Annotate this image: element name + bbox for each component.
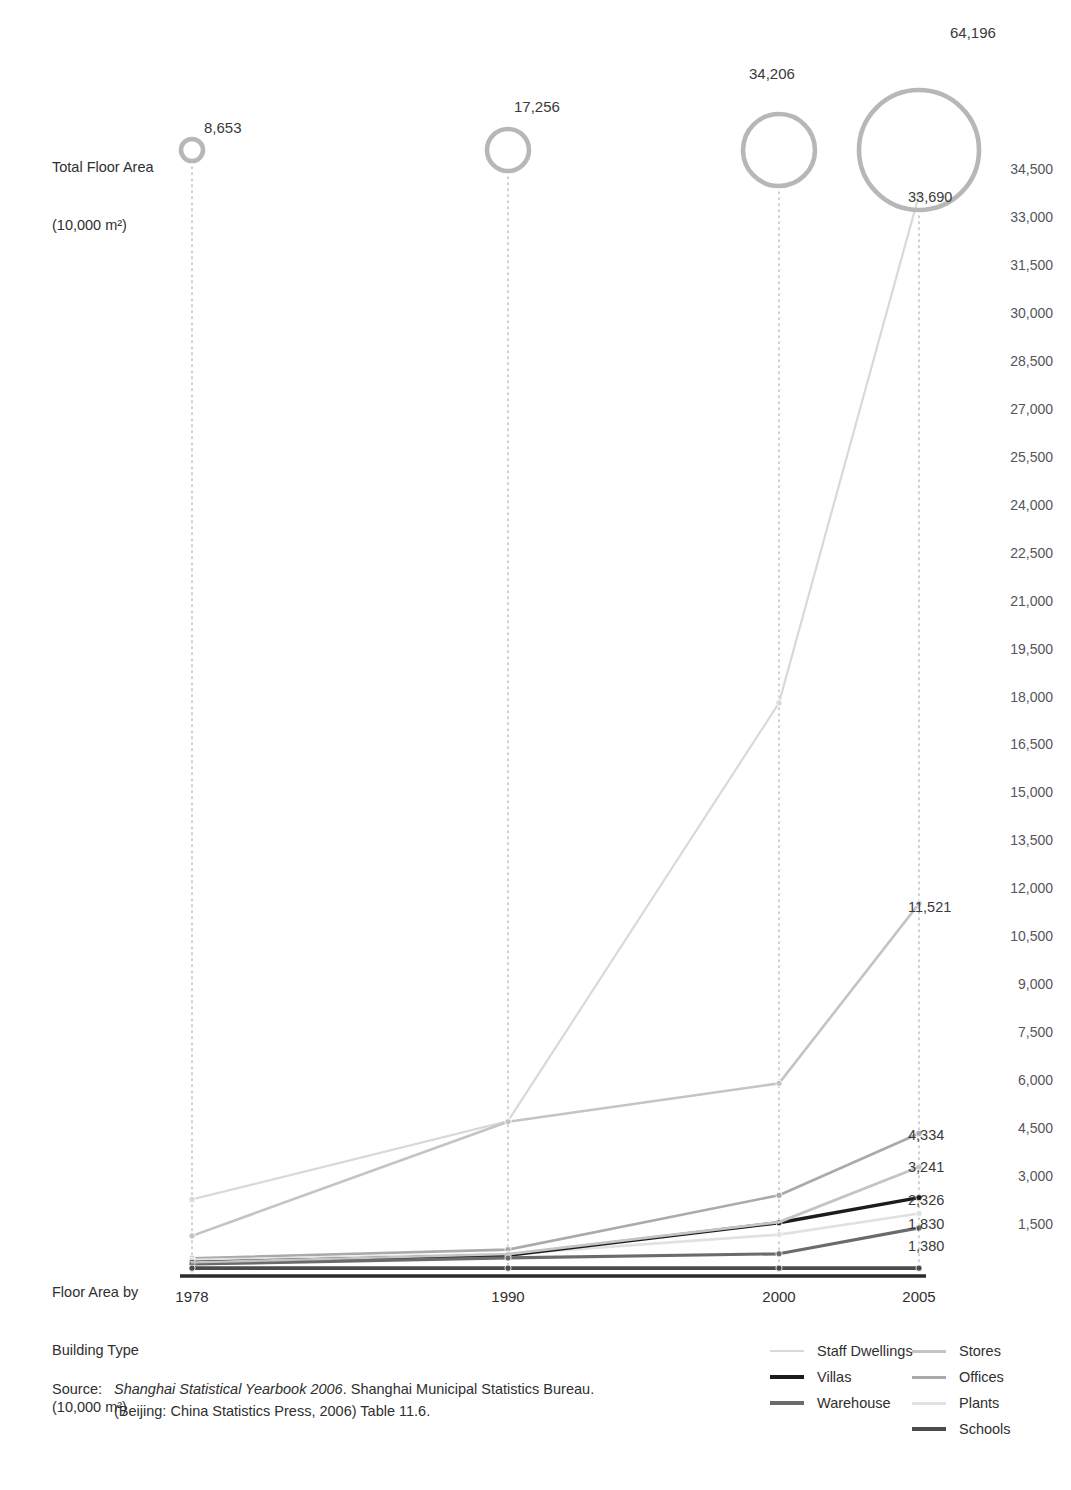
data-point: [189, 1196, 195, 1202]
legend-item-label: Staff Dwellings: [817, 1343, 913, 1359]
bubble-value-label: 8,653: [204, 119, 242, 136]
data-point: [505, 1119, 511, 1125]
x-axis-tick: 2000: [762, 1288, 795, 1305]
legend-item-staff-dwellings[interactable]: Staff Dwellings: [770, 1338, 912, 1364]
legend-item-label: Villas: [817, 1369, 851, 1385]
legend-swatch-icon: [912, 1427, 946, 1431]
legend-swatch-icon: [912, 1376, 946, 1379]
bubble-value-label: 34,206: [749, 65, 795, 82]
data-point: [505, 1265, 511, 1271]
total-floor-area-bubble: [487, 129, 529, 171]
legend-swatch-icon: [912, 1402, 946, 1405]
data-point: [776, 1231, 782, 1237]
bubble-value-label: 64,196: [950, 24, 996, 41]
source-title: Shanghai Statistical Yearbook 2006: [114, 1381, 343, 1397]
total-floor-area-bubble: [181, 139, 203, 161]
x-axis-tick: 2005: [902, 1288, 935, 1305]
source-key: Source:: [52, 1378, 114, 1400]
legend-swatch-icon: [770, 1350, 804, 1352]
source-rest: . Shanghai Municipal Statistics Bureau.: [343, 1381, 594, 1397]
legend-item-schools[interactable]: Schools: [912, 1416, 1070, 1442]
legend-column-left: Staff DwellingsVillasWarehouse: [770, 1338, 912, 1442]
legend-item-label: Offices: [959, 1369, 1004, 1385]
series-end-label: 4,334: [908, 1127, 944, 1143]
series-line: [192, 195, 919, 1200]
series-end-label: 3,241: [908, 1159, 944, 1175]
series-end-label: 33,690: [908, 189, 952, 205]
total-floor-area-label-line2: (10,000 m²): [52, 216, 154, 235]
total-floor-area-label: Total Floor Area (10,000 m²): [52, 120, 154, 273]
legend-item-stores[interactable]: Stores: [912, 1338, 1070, 1364]
legend-column-right: StoresOfficesPlantsSchools: [912, 1338, 1070, 1442]
legend-item-label: Stores: [959, 1343, 1001, 1359]
series-line: [192, 904, 919, 1236]
data-point: [189, 1233, 195, 1239]
data-point: [189, 1265, 195, 1271]
total-floor-area-bubble: [743, 114, 815, 186]
legend-item-label: Schools: [959, 1421, 1011, 1437]
series-end-label: 1,380: [908, 1238, 944, 1254]
floor-area-by-type-label-line2: Building Type: [52, 1341, 139, 1360]
legend-item-label: Plants: [959, 1395, 999, 1411]
series-line: [779, 1167, 919, 1222]
legend-item-plants[interactable]: Plants: [912, 1390, 1070, 1416]
data-point: [776, 1251, 782, 1257]
legend-swatch-icon: [912, 1350, 946, 1353]
bubble-value-label: 17,256: [514, 98, 560, 115]
data-point: [776, 1080, 782, 1086]
floor-area-by-type-label-line1: Floor Area by: [52, 1283, 139, 1302]
legend-swatch-icon: [770, 1401, 804, 1405]
series-end-label: 2,326: [908, 1192, 944, 1208]
legend-item-offices[interactable]: Offices: [912, 1364, 1070, 1390]
data-point: [776, 1192, 782, 1198]
legend-item-warehouse[interactable]: Warehouse: [770, 1390, 912, 1416]
chart-canvas: 34,50033,00031,50030,00028,50027,00025,5…: [0, 0, 1071, 1490]
legend-swatch-icon: [770, 1375, 804, 1379]
data-point: [776, 1265, 782, 1271]
total-floor-area-label-line1: Total Floor Area: [52, 158, 154, 177]
series-end-label: 11,521: [908, 899, 951, 915]
legend-item-villas[interactable]: Villas: [770, 1364, 912, 1390]
floor-area-by-type-label: Floor Area by Building Type (10,000 m²): [52, 1245, 139, 1455]
legend-item-label: Warehouse: [817, 1395, 891, 1411]
x-axis-tick: 1978: [175, 1288, 208, 1305]
data-point: [776, 700, 782, 706]
data-point: [916, 1265, 922, 1271]
legend: Staff DwellingsVillasWarehouse StoresOff…: [770, 1338, 1070, 1442]
source-line2: (Beijing: China Statistics Press, 2006) …: [114, 1400, 594, 1422]
series-line: [192, 1213, 919, 1259]
series-end-label: 1,830: [908, 1216, 944, 1232]
source-note: Source:Shanghai Statistical Yearbook 200…: [52, 1378, 594, 1423]
data-point: [505, 1255, 511, 1261]
x-axis-tick: 1990: [491, 1288, 524, 1305]
